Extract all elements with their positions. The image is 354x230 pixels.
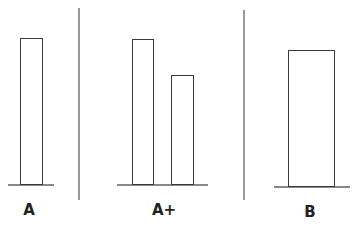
bar-a-plus-2 bbox=[171, 75, 194, 185]
label-a: A bbox=[23, 201, 35, 219]
label-a-plus: A+ bbox=[152, 201, 176, 219]
divider-1 bbox=[78, 8, 80, 200]
baseline-a-plus bbox=[117, 184, 208, 186]
bar-a-plus-1 bbox=[132, 39, 154, 185]
label-b: B bbox=[304, 203, 315, 221]
bar-b bbox=[288, 50, 335, 187]
bar-a bbox=[20, 38, 43, 185]
divider-2 bbox=[243, 10, 245, 200]
